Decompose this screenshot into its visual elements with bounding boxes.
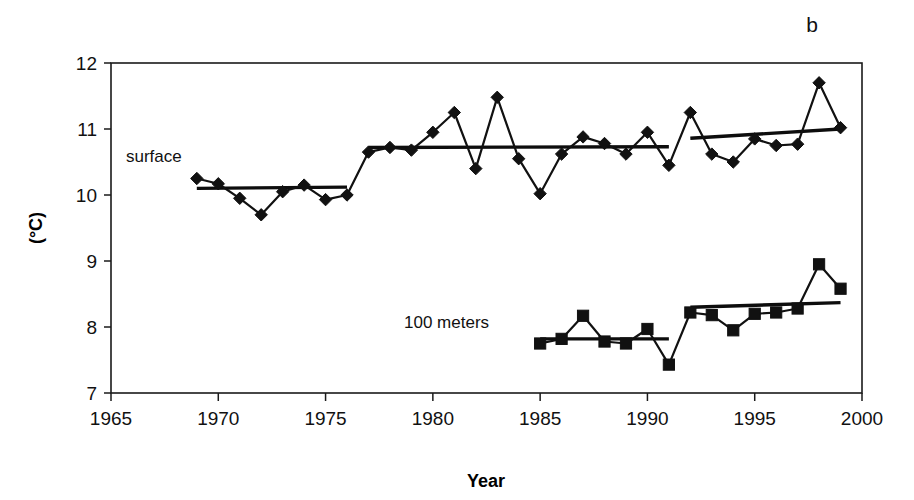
x-tick-label-1965: 1965 bbox=[90, 408, 132, 429]
x-tick-label-1980: 1980 bbox=[412, 408, 454, 429]
y-tick-label-10: 10 bbox=[76, 185, 97, 206]
y-tick-label-9: 9 bbox=[86, 251, 97, 272]
data-point-100-meters-1993 bbox=[706, 310, 717, 321]
y-tick-label-8: 8 bbox=[86, 317, 97, 338]
x-tick-label-1985: 1985 bbox=[519, 408, 561, 429]
data-point-100-meters-1989 bbox=[620, 338, 631, 349]
data-point-100-meters-1997 bbox=[792, 303, 803, 314]
x-tick-label-1975: 1975 bbox=[304, 408, 346, 429]
data-point-100-meters-1990 bbox=[642, 323, 653, 334]
data-point-100-meters-1996 bbox=[771, 307, 782, 318]
data-point-100-meters-1995 bbox=[749, 308, 760, 319]
x-tick-label-1995: 1995 bbox=[734, 408, 776, 429]
figure-container: 789101112 196519701975198019851990199520… bbox=[0, 0, 914, 500]
y-tick-label-7: 7 bbox=[86, 383, 97, 404]
y-axis-title: (°C) bbox=[26, 212, 46, 244]
y-tick-label-11: 11 bbox=[77, 119, 97, 140]
y-tick-label-12: 12 bbox=[76, 53, 97, 74]
x-tick-label-1990: 1990 bbox=[626, 408, 668, 429]
hundred-meters-series-label: 100 meters bbox=[404, 313, 489, 332]
data-point-100-meters-1985 bbox=[535, 338, 546, 349]
x-tick-label-1970: 1970 bbox=[197, 408, 239, 429]
surface-series-label: surface bbox=[126, 147, 182, 166]
x-tick-label-2000: 2000 bbox=[841, 408, 883, 429]
data-point-100-meters-1992 bbox=[685, 307, 696, 318]
data-point-100-meters-1994 bbox=[728, 325, 739, 336]
data-point-100-meters-1999 bbox=[835, 283, 846, 294]
data-point-100-meters-1991 bbox=[663, 359, 674, 370]
data-point-100-meters-1986 bbox=[556, 333, 567, 344]
data-point-100-meters-1987 bbox=[577, 310, 588, 321]
x-axis-title: Year bbox=[467, 471, 505, 491]
panel-label: b bbox=[806, 13, 818, 36]
data-point-100-meters-1998 bbox=[813, 259, 824, 270]
chart-background bbox=[0, 0, 914, 500]
temperature-time-series-chart: 789101112 196519701975198019851990199520… bbox=[0, 0, 914, 500]
data-point-100-meters-1988 bbox=[599, 336, 610, 347]
